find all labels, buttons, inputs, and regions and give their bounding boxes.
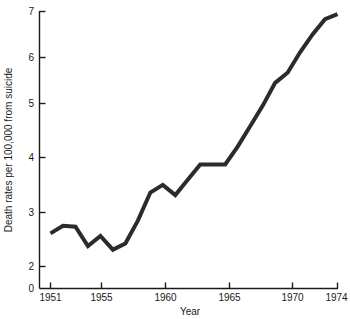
y-tick-label-5: 5 — [28, 98, 34, 109]
x-tick-label-1955: 1955 — [90, 292, 113, 303]
y-tick-label-4: 4 — [28, 152, 34, 163]
y-tick-label-3: 3 — [28, 207, 34, 218]
x-tick-label-1960: 1960 — [154, 292, 177, 303]
x-tick-label-1965: 1965 — [218, 292, 241, 303]
x-tick-labels: 1951 1955 1960 1965 1970 1974 — [39, 292, 348, 303]
suicide-rate-line-chart: 7 6 5 4 3 2 0 1951 1955 1960 1965 1970 1… — [0, 0, 350, 319]
y-tick-label-2: 2 — [28, 261, 34, 272]
x-tick-label-1974: 1974 — [325, 292, 348, 303]
y-tick-marks — [40, 12, 46, 267]
y-tick-label-7: 7 — [28, 6, 34, 17]
x-axis-title: Year — [180, 306, 201, 317]
x-tick-label-1970: 1970 — [281, 292, 304, 303]
x-tick-marks — [51, 283, 338, 289]
y-axis-title: Death rates per 100,000 from suicide — [3, 67, 14, 232]
y-tick-label-6: 6 — [28, 52, 34, 63]
chart-canvas: 7 6 5 4 3 2 0 1951 1955 1960 1965 1970 1… — [0, 0, 350, 319]
y-tick-label-0: 0 — [28, 283, 34, 294]
y-tick-labels: 7 6 5 4 3 2 0 — [28, 6, 34, 294]
x-tick-label-1951: 1951 — [39, 292, 62, 303]
data-series-line — [51, 14, 338, 250]
